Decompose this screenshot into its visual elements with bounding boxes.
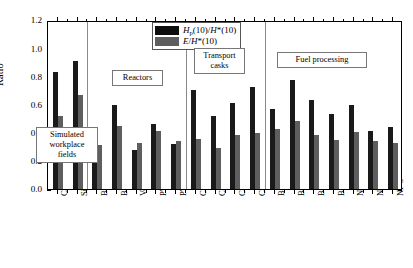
bar-e <box>156 131 161 189</box>
y-tick-mark <box>47 190 51 191</box>
bar-group <box>112 22 122 189</box>
x-tick-mark <box>333 190 334 194</box>
y-tick-label: 0.6 <box>20 101 42 110</box>
bar-group <box>349 22 359 189</box>
bar-e <box>275 129 280 189</box>
bar-e <box>295 121 300 189</box>
group-separator <box>265 22 266 189</box>
bar-e <box>373 141 378 189</box>
x-tick-mark <box>372 190 373 194</box>
bar-group <box>309 22 319 189</box>
y-tick-label: 0.8 <box>20 73 42 82</box>
legend-entry-e: E/H*(10) <box>155 36 236 47</box>
y-axis-title: Ratio <box>0 63 5 86</box>
x-tick-mark <box>136 190 137 194</box>
chart-legend: Hp(10)/H*(10) E/H*(10) <box>152 22 241 50</box>
chart-figure: Ratio 0.00.20.40.60.81.01.2 CanelSigmaBW… <box>0 0 413 268</box>
bar-group <box>73 22 83 189</box>
group-separator <box>87 22 88 189</box>
bar-group <box>92 22 102 189</box>
bar-e <box>137 143 142 189</box>
bar-group <box>250 22 260 189</box>
bar-e <box>216 148 221 189</box>
x-tick-mark <box>254 190 255 194</box>
annotation-fuel-processing: Fuel processing <box>277 52 367 68</box>
legend-swatch-hp <box>155 26 179 35</box>
bar-group <box>329 22 339 189</box>
annotation-reactors: Reactors <box>112 70 163 86</box>
legend-entry-hp: Hp(10)/H*(10) <box>155 25 236 36</box>
bar-group <box>132 22 142 189</box>
bar-e <box>354 132 359 189</box>
x-tick-mark <box>116 190 117 194</box>
x-tick-mark <box>294 190 295 194</box>
x-tick-mark <box>155 190 156 194</box>
x-tick-mark <box>195 190 196 194</box>
x-tick-mark <box>96 190 97 194</box>
bar-e <box>314 135 319 189</box>
bar-e <box>334 140 339 189</box>
bar-e <box>97 145 102 189</box>
annotation-simulated-workplace-fields: Simulated workplace fields <box>36 127 98 163</box>
x-tick-mark <box>215 190 216 194</box>
x-tick-mark <box>175 190 176 194</box>
x-tick-mark <box>77 190 78 194</box>
x-tick-mark <box>274 190 275 194</box>
bar-group <box>368 22 378 189</box>
legend-label-e: E/H*(10) <box>183 37 217 46</box>
bar-e <box>176 141 181 189</box>
bar-group <box>388 22 398 189</box>
bar-e <box>255 133 260 189</box>
x-tick-mark <box>313 190 314 194</box>
x-tick-mark <box>392 190 393 194</box>
bar-e <box>235 135 240 189</box>
legend-label-hp: Hp(10)/H*(10) <box>183 26 236 35</box>
bar-group <box>270 22 280 189</box>
x-tick-mark <box>353 190 354 194</box>
x-tick-mark <box>57 190 58 194</box>
bar-e <box>393 143 398 189</box>
bar-group <box>290 22 300 189</box>
y-tick-label: 0.0 <box>20 185 42 194</box>
bar-e <box>117 126 122 189</box>
bar-e <box>196 139 201 189</box>
bar-group <box>53 22 63 189</box>
y-tick-label: 1.2 <box>20 16 42 25</box>
x-tick-mark <box>234 190 235 194</box>
y-tick-label: 1.0 <box>20 45 42 54</box>
annotation-transport-casks: Transport casks <box>194 48 245 74</box>
legend-swatch-e <box>155 37 179 46</box>
